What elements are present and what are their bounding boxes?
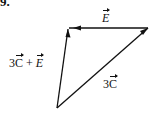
label-e: E	[102, 12, 109, 24]
vector-e-symbol: E	[102, 12, 109, 24]
arrowhead-e-icon	[73, 26, 81, 31]
vector-3c-plus-e-line	[57, 29, 68, 108]
vector-triangle-diagram: 9. E 3C + E 3C	[0, 0, 152, 117]
vector-c-symbol: C	[109, 78, 117, 90]
label-3c: 3C	[103, 78, 117, 90]
arrowhead-3c-plus-e-icon	[66, 29, 71, 38]
plus-operator: +	[23, 56, 36, 70]
vector-3c-line	[57, 28, 148, 108]
vector-e-symbol: E	[36, 57, 43, 69]
vector-c-symbol: C	[15, 57, 23, 69]
label-3c-plus-e: 3C + E	[9, 57, 43, 69]
